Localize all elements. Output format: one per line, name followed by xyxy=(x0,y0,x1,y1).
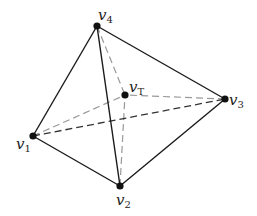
vertex-v3 xyxy=(221,95,228,102)
vertex-label-vT: vT xyxy=(129,78,144,97)
edge-v4-v1 xyxy=(33,26,97,136)
edge-v4-v3 xyxy=(97,26,225,99)
vertex-label-v2: v2 xyxy=(116,191,131,210)
diagram-canvas: v1v2v3v4vT xyxy=(0,0,257,216)
vertex-vT xyxy=(121,91,128,98)
vertex-label-v1: v1 xyxy=(16,135,31,154)
edges-layer xyxy=(33,26,225,186)
edge-v1-v3 xyxy=(33,99,225,136)
vertex-label-v3: v3 xyxy=(229,91,244,110)
labels-layer: v1v2v3v4vT xyxy=(16,6,244,210)
edge-v1-vT xyxy=(33,95,125,136)
vertices-layer xyxy=(29,22,228,189)
vertex-label-v4: v4 xyxy=(98,6,113,25)
edge-v2-v3 xyxy=(120,99,225,186)
vertex-v2 xyxy=(116,182,123,189)
edge-v1-v2 xyxy=(33,136,120,186)
edge-v2-vT xyxy=(120,95,125,186)
tetrahedron-diagram: v1v2v3v4vT xyxy=(0,0,257,216)
edge-v4-vT xyxy=(97,26,125,95)
edge-v4-v2 xyxy=(97,26,120,186)
vertex-v1 xyxy=(29,132,36,139)
